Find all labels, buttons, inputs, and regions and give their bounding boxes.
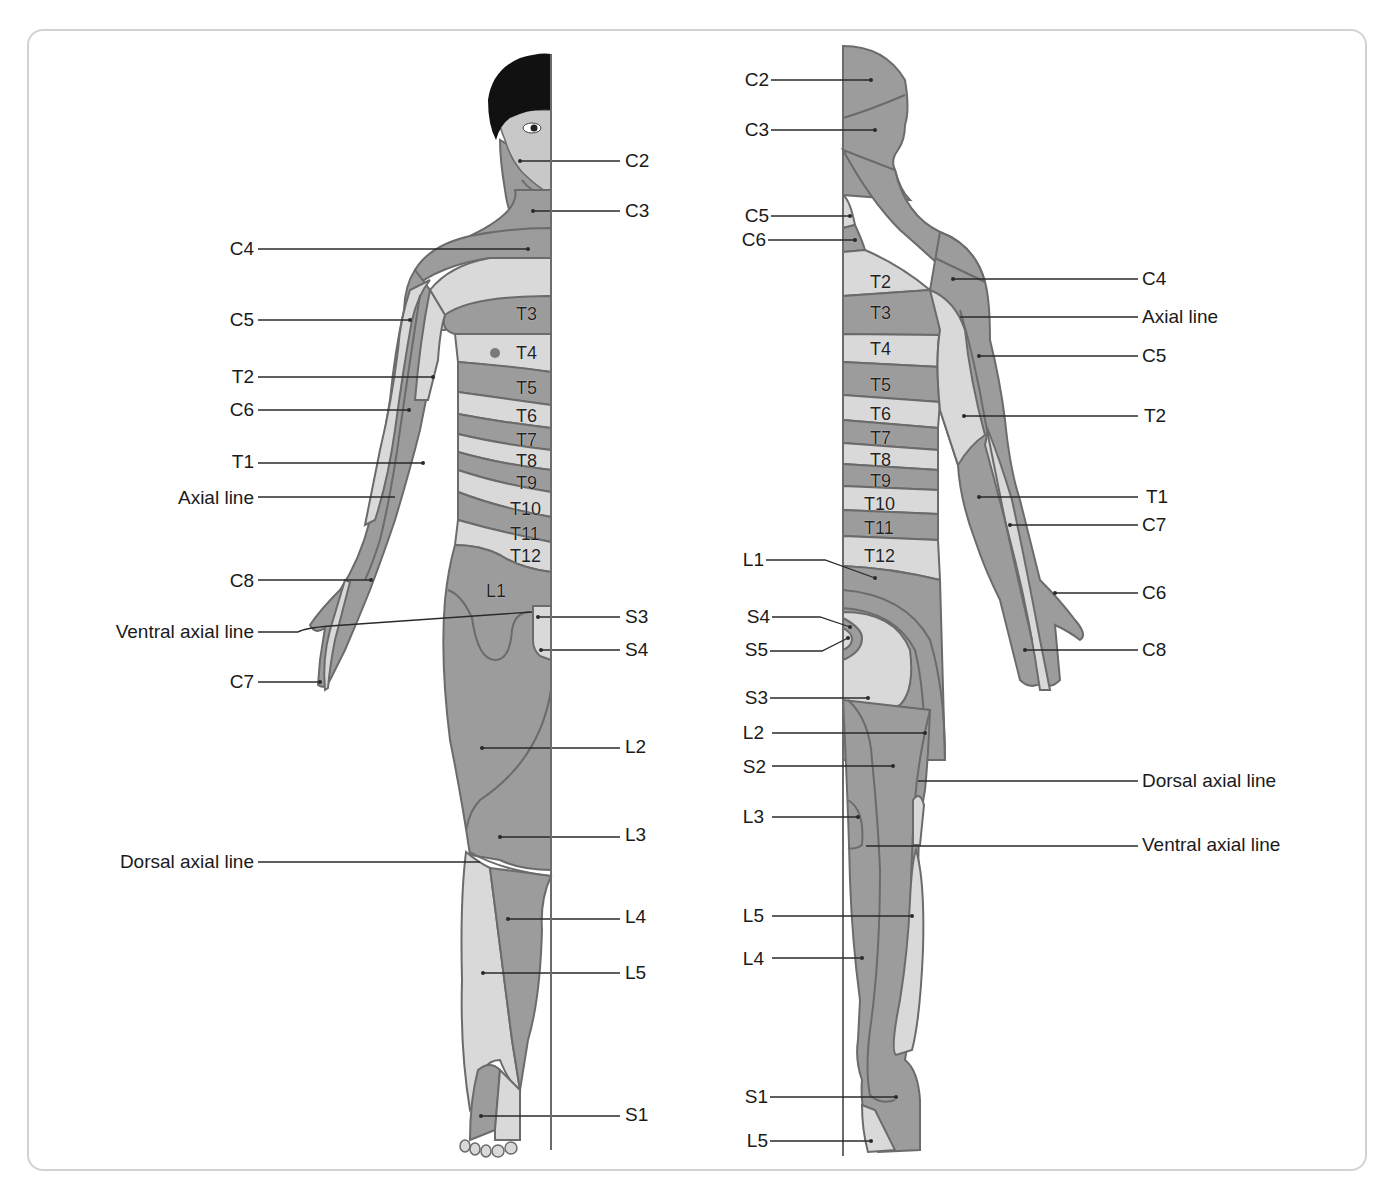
label-post-s5: S5 — [745, 640, 768, 660]
label-post-axial-line: Axial line — [1142, 307, 1218, 327]
seg-post-t2: T2 — [870, 273, 891, 291]
label-post-s3: S3 — [745, 688, 768, 708]
label-post-c3: C3 — [745, 120, 769, 140]
seg-ant-t11: T11 — [510, 525, 540, 543]
label-post-c6: C6 — [742, 230, 766, 250]
seg-post-t4: T4 — [870, 340, 891, 358]
label-post-dorsal-axial-line: Dorsal axial line — [1142, 771, 1276, 791]
label-post-t1: T1 — [1146, 487, 1168, 507]
seg-ant-t12: T12 — [510, 547, 541, 565]
seg-ant-t6: T6 — [516, 407, 537, 425]
anterior-toes — [460, 1140, 517, 1157]
seg-post-t10: T10 — [864, 495, 895, 513]
label-ant-t2: T2 — [232, 367, 254, 387]
seg-ant-t5: T5 — [516, 379, 537, 397]
label-post-l5-heel: L5 — [747, 1131, 768, 1151]
label-ant-ventral-axial-line: Ventral axial line — [116, 622, 254, 642]
seg-post-t9: T9 — [870, 472, 891, 490]
label-post-c7: C7 — [1142, 515, 1166, 535]
label-ant-l3: L3 — [625, 825, 646, 845]
label-post-c4: C4 — [1142, 269, 1166, 289]
label-ant-c7: C7 — [230, 672, 254, 692]
seg-post-t7: T7 — [870, 429, 891, 447]
label-post-c5: C5 — [745, 206, 769, 226]
label-ant-l5: L5 — [625, 963, 646, 983]
label-ant-l4: L4 — [625, 907, 646, 927]
label-ant-c5: C5 — [230, 310, 254, 330]
label-ant-c3: C3 — [625, 201, 649, 221]
label-post-c8: C8 — [1142, 640, 1166, 660]
seg-ant-t9: T9 — [516, 474, 537, 492]
label-post-c5: C5 — [1142, 346, 1166, 366]
anterior-body-figure: .dk{fill:#9c9c9c;stroke:#6b6b6b;stroke-w… — [0, 0, 1392, 1192]
label-ant-c2: C2 — [625, 151, 649, 171]
label-ant-s3: S3 — [625, 607, 648, 627]
seg-post-t3: T3 — [870, 304, 891, 322]
seg-post-t6: T6 — [870, 405, 891, 423]
label-post-l5: L5 — [743, 906, 764, 926]
seg-post-t11: T11 — [864, 519, 894, 537]
label-post-c2: C2 — [745, 70, 769, 90]
label-post-c6: C6 — [1142, 583, 1166, 603]
label-post-l4: L4 — [743, 949, 764, 969]
label-post-l1: L1 — [743, 550, 764, 570]
label-ant-c6: C6 — [230, 400, 254, 420]
label-ant-dorsal-axial-line: Dorsal axial line — [120, 852, 254, 872]
label-ant-axial-line: Axial line — [178, 488, 254, 508]
seg-ant-t7: T7 — [516, 431, 537, 449]
label-ant-c8: C8 — [230, 571, 254, 591]
anterior-s3-s4-zone — [533, 606, 551, 660]
label-post-s2: S2 — [743, 757, 766, 777]
anterior-arm — [310, 270, 445, 690]
seg-ant-t3: T3 — [516, 305, 537, 323]
label-post-s1: S1 — [745, 1087, 768, 1107]
label-ant-t1: T1 — [232, 452, 254, 472]
label-ant-s4: S4 — [625, 640, 648, 660]
seg-post-t12: T12 — [864, 547, 895, 565]
label-ant-s1: S1 — [625, 1105, 648, 1125]
seg-ant-l1: L1 — [486, 582, 506, 600]
label-ant-l2: L2 — [625, 737, 646, 757]
label-post-t2: T2 — [1144, 406, 1166, 426]
posterior-arm — [930, 232, 1083, 690]
label-post-l3: L3 — [743, 807, 764, 827]
label-post-s4: S4 — [747, 607, 770, 627]
label-post-ventral-axial-line: Ventral axial line — [1142, 835, 1280, 855]
seg-post-t8: T8 — [870, 451, 891, 469]
label-post-l2: L2 — [743, 723, 764, 743]
label-ant-c4: C4 — [230, 239, 254, 259]
seg-ant-t10: T10 — [510, 500, 541, 518]
seg-ant-t8: T8 — [516, 452, 537, 470]
seg-ant-t4: T4 — [516, 344, 537, 362]
seg-post-t5: T5 — [870, 376, 891, 394]
